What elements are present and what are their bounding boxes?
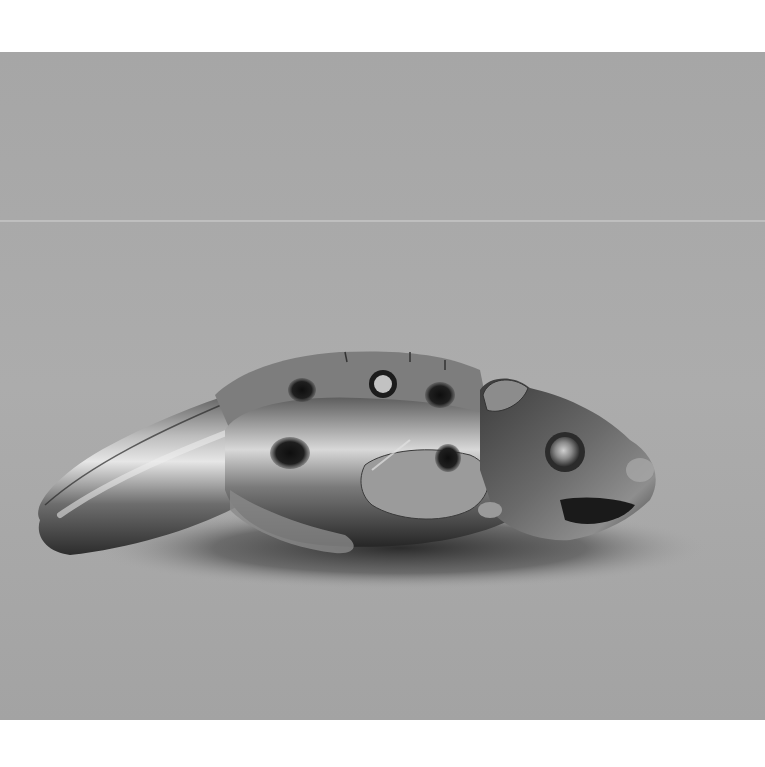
drilled-hole	[270, 437, 310, 469]
folded-limb	[361, 450, 489, 519]
drilled-hole	[288, 378, 316, 402]
drilled-hole	[435, 444, 461, 472]
inlaid-eye	[550, 437, 580, 467]
photograph: Carved claw amulet	[0, 52, 765, 720]
drilled-hole	[425, 382, 455, 408]
perforation-hole	[374, 375, 392, 393]
snout-highlight	[626, 458, 654, 482]
amulet-photo-svg	[0, 52, 765, 720]
base-knob	[478, 502, 502, 518]
